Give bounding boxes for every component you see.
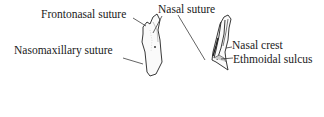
leader-nasal-suture-right	[178, 15, 205, 60]
leader-frontonasal	[133, 18, 146, 26]
label-nasal-crest: Nasal crest	[232, 40, 283, 52]
label-nasal-suture: Nasal suture	[158, 4, 215, 16]
label-frontonasal-suture: Frontonasal suture	[41, 9, 126, 21]
nasal-bone-diagram: Frontonasal suture Nasal suture Nasomaxi…	[0, 0, 324, 117]
label-nasomaxillary-suture: Nasomaxillary suture	[14, 45, 113, 57]
label-ethmoidal-sulcus: Ethmoidal sulcus	[233, 54, 313, 66]
leader-nasomaxillary	[123, 58, 143, 64]
nasal-bone-external-view	[142, 14, 162, 76]
nasal-bone-internal-view	[212, 15, 231, 70]
